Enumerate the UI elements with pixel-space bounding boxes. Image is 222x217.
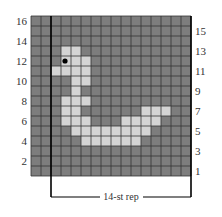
main-color-cell xyxy=(171,26,181,36)
contrast-color-cell xyxy=(141,116,151,126)
main-color-cell xyxy=(131,26,141,36)
main-color-cell xyxy=(91,96,101,106)
main-color-cell xyxy=(151,86,161,96)
main-color-cell xyxy=(41,46,51,56)
main-color-cell xyxy=(161,126,171,136)
main-color-cell xyxy=(131,16,141,26)
main-color-cell xyxy=(41,36,51,46)
main-color-cell xyxy=(51,126,61,136)
main-color-cell xyxy=(181,146,191,156)
main-color-cell xyxy=(111,36,121,46)
main-color-cell xyxy=(81,156,91,166)
main-color-cell xyxy=(141,166,151,176)
main-color-cell xyxy=(131,46,141,56)
main-color-cell xyxy=(31,56,41,66)
main-color-cell xyxy=(51,76,61,86)
main-color-cell xyxy=(51,86,61,96)
main-color-cell xyxy=(101,56,111,66)
contrast-color-cell xyxy=(91,136,101,146)
main-color-cell xyxy=(161,116,171,126)
main-color-cell xyxy=(111,76,121,86)
main-color-cell xyxy=(41,96,51,106)
main-color-cell xyxy=(31,156,41,166)
main-color-cell xyxy=(31,16,41,26)
main-color-cell xyxy=(51,116,61,126)
contrast-color-cell xyxy=(111,136,121,146)
main-color-cell xyxy=(61,126,71,136)
contrast-color-cell xyxy=(71,46,81,56)
main-color-cell xyxy=(181,126,191,136)
contrast-color-cell xyxy=(131,116,141,126)
main-color-cell xyxy=(171,46,181,56)
main-color-cell xyxy=(151,166,161,176)
main-color-cell xyxy=(31,66,41,76)
main-color-cell xyxy=(131,36,141,46)
main-color-cell xyxy=(161,56,171,66)
main-color-cell xyxy=(101,66,111,76)
contrast-color-cell xyxy=(81,56,91,66)
contrast-color-cell xyxy=(121,116,131,126)
row-label-left: 10 xyxy=(16,75,28,87)
main-color-cell xyxy=(101,76,111,86)
main-color-cell xyxy=(31,116,41,126)
main-color-cell xyxy=(51,156,61,166)
main-color-cell xyxy=(101,16,111,26)
main-color-cell xyxy=(111,96,121,106)
main-color-cell xyxy=(31,106,41,116)
contrast-color-cell xyxy=(71,86,81,96)
main-color-cell xyxy=(31,166,41,176)
main-color-cell xyxy=(151,146,161,156)
main-color-cell xyxy=(81,106,91,116)
main-color-cell xyxy=(91,56,101,66)
main-color-cell xyxy=(131,96,141,106)
main-color-cell xyxy=(91,76,101,86)
main-color-cell xyxy=(171,146,181,156)
row-label-right: 7 xyxy=(195,105,201,117)
main-color-cell xyxy=(61,36,71,46)
main-color-cell xyxy=(151,156,161,166)
main-color-cell xyxy=(71,36,81,46)
main-color-cell xyxy=(31,136,41,146)
main-color-cell xyxy=(41,166,51,176)
row-label-right: 13 xyxy=(195,45,207,57)
main-color-cell xyxy=(181,56,191,66)
main-color-cell xyxy=(101,116,111,126)
main-color-cell xyxy=(121,166,131,176)
main-color-cell xyxy=(31,146,41,156)
repeat-label: 14-st rep xyxy=(103,191,138,202)
main-color-cell xyxy=(51,166,61,176)
main-color-cell xyxy=(141,16,151,26)
contrast-color-cell xyxy=(71,76,81,86)
main-color-cell xyxy=(151,46,161,56)
main-color-cell xyxy=(181,106,191,116)
main-color-cell xyxy=(151,66,161,76)
main-color-cell xyxy=(151,76,161,86)
contrast-color-cell xyxy=(81,96,91,106)
main-color-cell xyxy=(171,16,181,26)
main-color-cell xyxy=(171,76,181,86)
main-color-cell xyxy=(41,156,51,166)
main-color-cell xyxy=(121,86,131,96)
contrast-color-cell xyxy=(121,136,131,146)
contrast-color-cell xyxy=(81,76,91,86)
main-color-cell xyxy=(161,36,171,46)
main-color-cell xyxy=(111,56,121,66)
row-label-left: 16 xyxy=(16,15,28,27)
contrast-color-cell xyxy=(81,136,91,146)
row-label-right: 9 xyxy=(195,85,201,97)
row-label-left: 4 xyxy=(22,135,28,147)
main-color-cell xyxy=(101,166,111,176)
main-color-cell xyxy=(101,26,111,36)
main-color-cell xyxy=(151,26,161,36)
contrast-color-cell xyxy=(81,66,91,76)
main-color-cell xyxy=(51,106,61,116)
main-color-cell xyxy=(171,116,181,126)
main-color-cell xyxy=(91,46,101,56)
contrast-color-cell xyxy=(71,116,81,126)
main-color-cell xyxy=(41,86,51,96)
main-color-cell xyxy=(91,66,101,76)
main-color-cell xyxy=(71,16,81,26)
main-color-cell xyxy=(171,96,181,106)
main-color-cell xyxy=(31,126,41,136)
main-color-cell xyxy=(41,116,51,126)
